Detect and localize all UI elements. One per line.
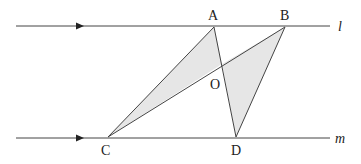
triangle-aoc (108, 27, 222, 137)
parallel-lines-diagram: A B C D O l m (0, 0, 361, 164)
triangle-bod (222, 27, 285, 137)
segment-ac (108, 27, 214, 137)
label-b: B (280, 8, 289, 23)
arrow-icon-l (76, 23, 84, 30)
label-line-l: l (338, 19, 342, 34)
label-d: D (231, 143, 241, 158)
label-c: C (101, 143, 110, 158)
label-o: O (210, 77, 220, 92)
label-line-m: m (335, 131, 345, 146)
arrow-icon-m (76, 135, 84, 142)
label-a: A (208, 8, 219, 23)
